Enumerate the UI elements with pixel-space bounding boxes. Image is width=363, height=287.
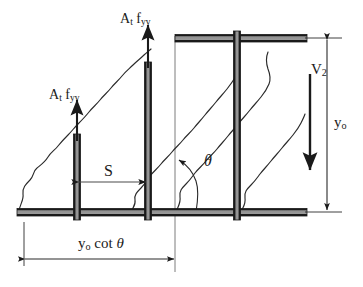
stirrup-force-label-mid: At fyv [120, 12, 150, 28]
shear-truss-diagram: At fyv At fyv S θ V2 yo yo cot θ [0, 0, 363, 287]
horizontal-projection-label: yo cot θ [78, 236, 124, 252]
crack-lines-group [19, 33, 305, 212]
stirrup-3 [234, 31, 241, 220]
stirrup-1 [74, 134, 81, 220]
top-chord [175, 35, 307, 43]
diagram-canvas [0, 0, 363, 287]
shear-force-label: V2 [311, 62, 327, 78]
stirrup-force-label-left: At fyv [49, 88, 79, 104]
crack-4 [241, 114, 305, 212]
spacing-label: S [104, 163, 113, 179]
stirrup-2 [145, 62, 152, 220]
theta-label: θ [204, 153, 212, 169]
crack-1 [19, 49, 151, 211]
theta-arc [179, 160, 198, 212]
bottom-chord [17, 209, 307, 217]
depth-label: yo [334, 115, 347, 131]
